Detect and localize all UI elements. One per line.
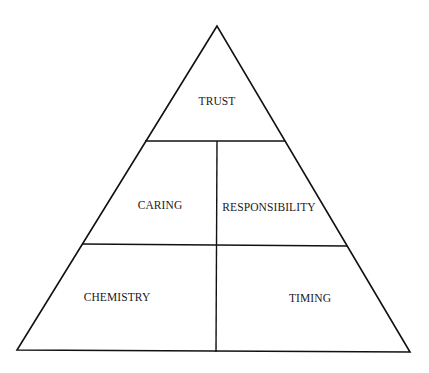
label-chemistry: CHEMISTRY xyxy=(84,291,151,303)
column-divider xyxy=(216,141,217,352)
label-timing: TIMING xyxy=(289,292,331,304)
pyramid-outline xyxy=(17,26,410,352)
label-caring: CARING xyxy=(138,199,183,211)
label-trust: TRUST xyxy=(199,95,236,107)
label-responsibility: RESPONSIBILITY xyxy=(222,201,315,213)
pyramid-diagram xyxy=(0,0,429,373)
